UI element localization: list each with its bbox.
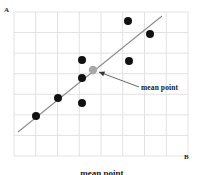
data-point-1 <box>54 94 62 102</box>
x-axis-label: B <box>184 154 189 161</box>
mean-point-annotation-label: mean point <box>141 83 178 92</box>
y-axis-label: A <box>4 7 9 14</box>
mean-point-marker <box>89 66 97 74</box>
data-point-3 <box>78 74 86 82</box>
data-point-5 <box>124 17 132 25</box>
figure-container: A B mean point mean point <box>0 0 204 175</box>
data-point-4 <box>78 99 86 107</box>
data-point-2 <box>78 56 86 64</box>
arrow-shaft <box>99 72 139 87</box>
figure-caption: mean point <box>0 168 204 175</box>
mean-point-dot <box>89 66 97 74</box>
data-point-0 <box>32 112 40 120</box>
data-point-6 <box>146 30 154 38</box>
data-point-7 <box>125 57 133 65</box>
